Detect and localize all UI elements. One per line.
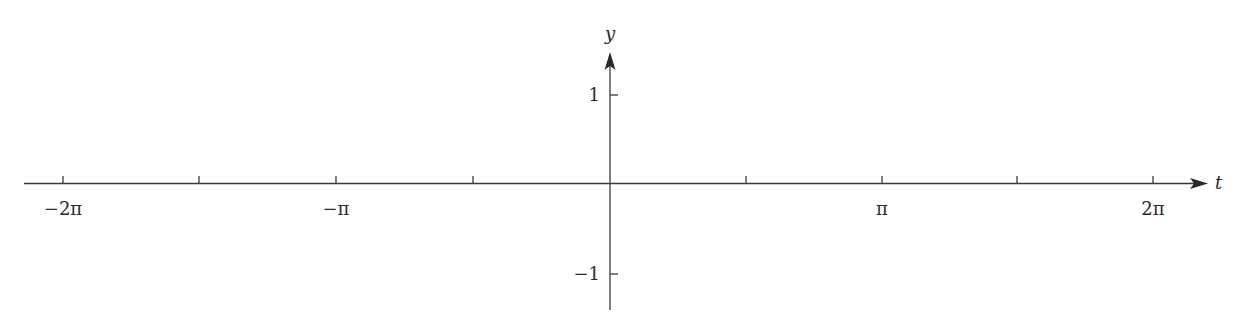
x-tick-label-neg-2pi: −2π <box>44 198 83 219</box>
y-tick-label-1: 1 <box>589 84 600 105</box>
x-ticks <box>63 176 1153 184</box>
x-tick-label-pi: π <box>876 198 888 219</box>
x-tick-label-2pi: 2π <box>1141 198 1164 219</box>
y-tick-label-neg-1: −1 <box>573 263 600 284</box>
x-tick-label-neg-pi: −π <box>323 198 350 219</box>
x-axis-label: t <box>1215 172 1223 193</box>
y-ticks <box>610 95 618 274</box>
coordinate-axes-chart: −2π −π π 2π 1 −1 t y <box>0 0 1234 336</box>
y-axis-label: y <box>604 23 616 44</box>
